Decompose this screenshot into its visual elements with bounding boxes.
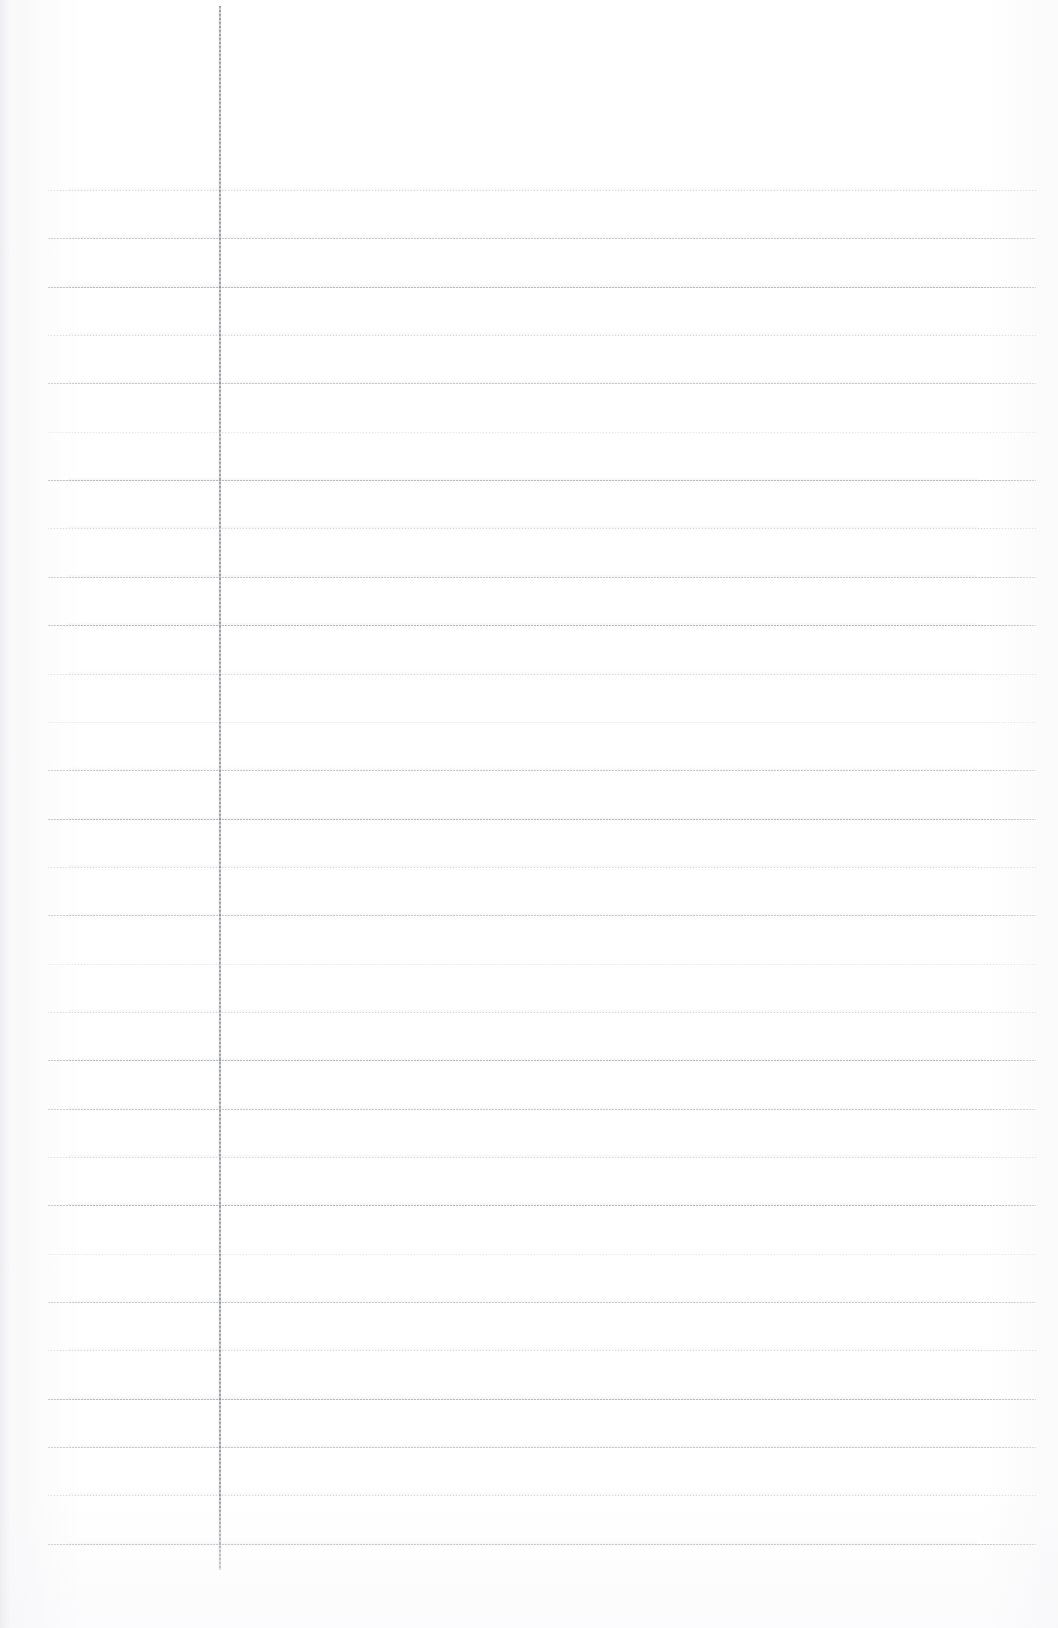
vertical-margin-rule xyxy=(219,6,221,1570)
writing-area xyxy=(223,190,1036,1544)
scanned-page: Blank lined (ruled) paper page. No text,… xyxy=(0,0,1058,1628)
